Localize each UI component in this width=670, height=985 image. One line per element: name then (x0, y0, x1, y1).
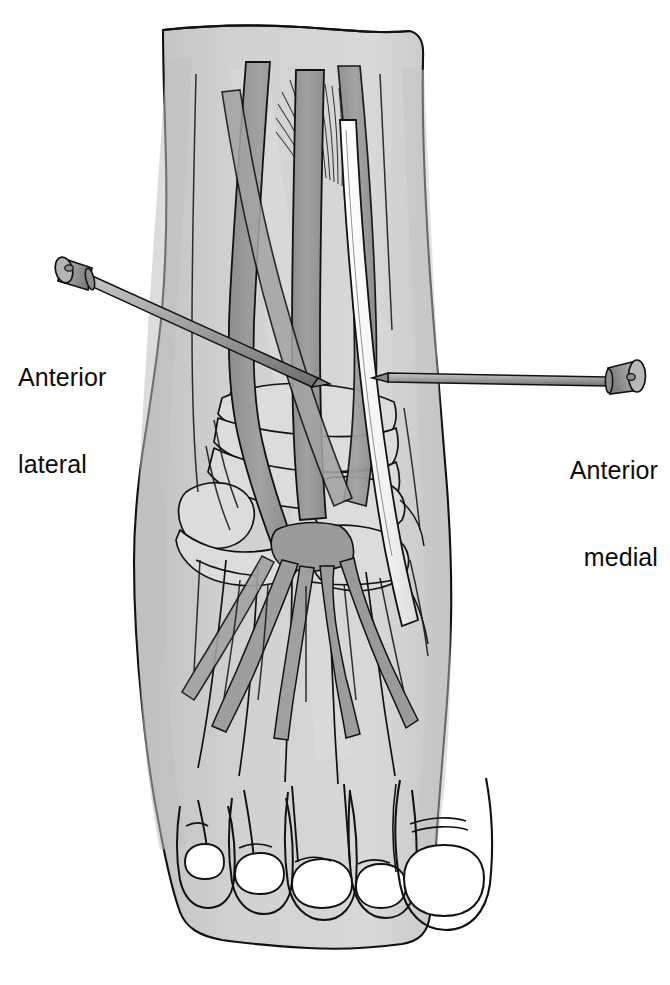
label-anterior-medial: Anterior medial (570, 398, 658, 630)
toenail-5 (185, 844, 224, 879)
figure-root: Anterior lateral Anterior medial (0, 0, 670, 985)
anteromedial-hub (605, 360, 645, 394)
anterolateral-hub (53, 255, 97, 290)
label-anterior-medial-line2: medial (570, 543, 658, 572)
toenail-1-hallux (404, 845, 484, 916)
toenail-3 (292, 859, 352, 908)
label-anterior-lateral: Anterior lateral (18, 305, 106, 537)
label-anterior-medial-line1: Anterior (570, 456, 658, 485)
label-anterior-lateral-line1: Anterior (18, 363, 106, 392)
label-anterior-lateral-line2: lateral (18, 450, 106, 479)
toenail-4 (235, 853, 284, 894)
